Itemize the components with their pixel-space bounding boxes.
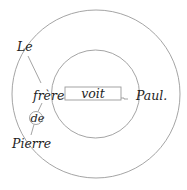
connector-de-pierre bbox=[31, 125, 34, 136]
word-frere: frère bbox=[32, 88, 64, 103]
dependency-diagram: Le frère de Pierre voit Paul. bbox=[0, 0, 187, 190]
word-pierre: Pierre bbox=[11, 136, 51, 151]
word-paul: Paul. bbox=[135, 88, 167, 103]
word-le: Le bbox=[16, 39, 33, 54]
connector-le-frere bbox=[28, 56, 41, 83]
word-voit: voit bbox=[81, 86, 106, 101]
word-de: de bbox=[31, 111, 45, 125]
connector-voit-paul bbox=[121, 98, 128, 99]
